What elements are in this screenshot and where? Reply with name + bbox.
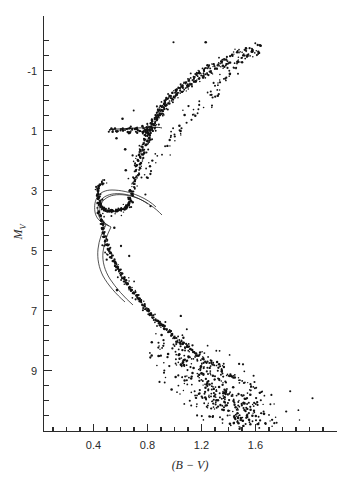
data-point [215, 401, 217, 403]
data-point [115, 137, 117, 139]
data-point [239, 419, 241, 421]
data-point [172, 41, 174, 43]
data-point [241, 380, 243, 382]
data-point [237, 422, 239, 424]
data-point [158, 124, 160, 126]
data-point [169, 139, 171, 141]
data-point [145, 132, 147, 134]
data-point [97, 193, 99, 195]
data-point [200, 372, 202, 374]
data-point [233, 54, 234, 55]
data-point [213, 82, 215, 84]
data-point [116, 289, 119, 292]
data-point [209, 372, 211, 374]
data-point [245, 417, 247, 419]
data-point [148, 141, 150, 143]
data-point [244, 398, 247, 401]
data-point [101, 183, 103, 185]
data-point [260, 412, 262, 414]
data-point [112, 129, 114, 131]
data-point [182, 337, 184, 339]
data-point [98, 186, 100, 188]
data-point [257, 44, 259, 46]
data-point [190, 377, 192, 379]
data-point [185, 87, 187, 89]
data-point [148, 137, 150, 139]
data-point [162, 345, 164, 347]
data-point [106, 182, 107, 183]
data-point [184, 350, 186, 352]
data-point [196, 354, 199, 357]
data-point [162, 110, 164, 112]
data-point [155, 333, 157, 335]
data-point [224, 398, 226, 400]
data-point [132, 193, 133, 194]
data-point [131, 287, 133, 289]
data-point [183, 364, 186, 367]
data-point [191, 363, 193, 365]
data-point [106, 259, 108, 261]
data-point [119, 129, 121, 131]
data-point [132, 190, 134, 192]
data-point [217, 370, 219, 372]
y-tick-label: 3 [31, 185, 37, 197]
data-point [210, 360, 212, 362]
data-point [228, 70, 230, 72]
data-point [157, 355, 159, 357]
data-point [118, 264, 119, 265]
data-point [169, 154, 171, 156]
data-point [227, 414, 229, 416]
data-point [163, 343, 165, 345]
data-point [207, 373, 209, 375]
data-point [210, 407, 212, 409]
data-point [214, 85, 216, 87]
data-point [240, 417, 242, 419]
data-point [145, 143, 147, 145]
data-point [197, 75, 199, 77]
data-point [200, 366, 202, 368]
data-point [110, 211, 112, 213]
data-point [191, 83, 192, 84]
data-point [154, 128, 156, 130]
data-point [218, 363, 221, 366]
data-point [253, 375, 255, 377]
data-point [249, 423, 251, 425]
data-point [138, 294, 140, 296]
data-point [134, 170, 136, 172]
data-point [226, 388, 228, 390]
data-point [210, 395, 212, 397]
data-point [141, 147, 143, 149]
data-point [104, 236, 106, 238]
data-point [219, 74, 221, 76]
data-point [212, 96, 214, 98]
data-point [149, 130, 151, 132]
data-point [141, 125, 143, 127]
data-point [145, 134, 146, 135]
data-point [175, 90, 177, 92]
data-point [198, 374, 200, 376]
data-point [207, 389, 209, 391]
data-point [175, 363, 177, 365]
data-point [114, 213, 115, 214]
data-point [170, 95, 172, 97]
data-point [237, 393, 239, 395]
data-point [231, 375, 233, 377]
data-point [258, 427, 260, 429]
data-point [149, 356, 151, 358]
data-point [189, 348, 191, 350]
data-point [230, 424, 232, 426]
y-tick-label: -1 [27, 65, 37, 77]
data-point [121, 276, 123, 278]
data-point [252, 413, 253, 414]
data-point [206, 72, 208, 74]
data-point [254, 42, 256, 44]
data-point [158, 117, 160, 119]
data-point [185, 343, 187, 345]
data-point [160, 327, 161, 328]
data-point [152, 130, 154, 132]
data-point [228, 75, 230, 77]
data-point [233, 415, 235, 417]
data-point [138, 169, 140, 171]
data-point [257, 404, 259, 406]
data-point [190, 404, 192, 406]
